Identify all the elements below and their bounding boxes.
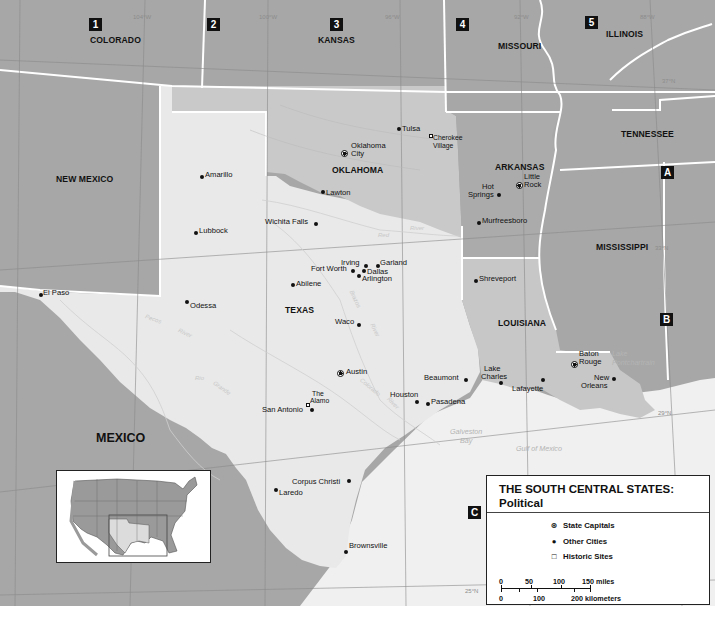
city-dot-icon: ●: [549, 537, 559, 546]
city-label-amarillo: Amarillo: [205, 171, 232, 179]
historic-label-village: Village: [433, 143, 453, 150]
city-marker-arlington[interactable]: [357, 274, 361, 278]
city-label-austin: Austin: [346, 368, 367, 376]
grid-marker-a: A: [661, 166, 674, 179]
grid-marker-4: 4: [456, 18, 469, 31]
city-marker-shreveport[interactable]: [474, 279, 478, 283]
historic-label-alamo: Alamo: [310, 398, 329, 405]
legend-row-cities: ●Other Cities: [549, 537, 607, 546]
city-marker-lake-charles[interactable]: [499, 381, 503, 385]
state-label-missouri: MISSOURI: [498, 42, 541, 51]
capital-marker-oklahoma-city[interactable]: [341, 150, 348, 157]
state-label-arkansas: ARKANSAS: [495, 163, 545, 172]
water-label-pontchartrain: Pontchartrain: [612, 359, 655, 366]
city-label-wichita-falls: Wichita Falls: [265, 218, 308, 226]
city-marker-waco[interactable]: [357, 323, 361, 327]
state-label-tennessee: TENNESSEE: [621, 130, 674, 139]
city-label-waco: Waco: [335, 318, 354, 326]
city-marker-amarillo[interactable]: [200, 175, 204, 179]
city-label-lubbock: Lubbock: [199, 227, 228, 235]
state-label-mississippi: MISSISSIPPI: [596, 243, 648, 252]
city-marker-odessa[interactable]: [185, 300, 189, 304]
state-label-colorado: COLORADO: [90, 36, 141, 45]
city-label-brownsville: Brownsville: [349, 542, 387, 550]
city-marker-beaumont[interactable]: [464, 378, 468, 382]
water-label-lake: Lake: [612, 350, 628, 357]
city-marker-hot-springs[interactable]: [497, 193, 501, 197]
city-label-el-paso: El Paso: [43, 289, 69, 297]
state-label-texas: TEXAS: [285, 306, 314, 315]
capital-marker-austin[interactable]: [337, 370, 344, 377]
city-marker-wichita-falls[interactable]: [314, 222, 318, 226]
grid-marker-3: 3: [330, 18, 343, 31]
state-label-kansas: KANSAS: [318, 36, 355, 45]
state-label-oklahoma: OKLAHOMA: [332, 166, 383, 175]
longitude-label: 96°W: [385, 14, 400, 20]
grid-marker-2: 2: [207, 18, 220, 31]
city-marker-laredo[interactable]: [274, 488, 278, 492]
city-label-laredo: Laredo: [279, 489, 303, 497]
state-label-louisiana: LOUISIANA: [498, 319, 546, 328]
inset-locator-map: [56, 470, 211, 563]
latitude-label: 37°N: [662, 78, 675, 84]
city-marker-houston[interactable]: [415, 400, 419, 404]
longitude-label: 88°W: [640, 14, 655, 20]
latitude-label: 33°N: [655, 245, 668, 251]
city-label-springs: Springs: [468, 191, 494, 199]
legend-divider: [487, 512, 709, 513]
grid-marker-1: 1: [89, 18, 102, 31]
water-label-galveston-bay: Bay: [460, 437, 472, 444]
grid-marker-5: 5: [585, 16, 598, 29]
city-marker-murfreesboro[interactable]: [477, 221, 481, 225]
city-label-garland: Garland: [380, 259, 407, 267]
river-label-red-river: River: [410, 225, 424, 231]
city-marker-pasadena[interactable]: [426, 402, 430, 406]
city-label-corpus-christi: Corpus Christi: [292, 478, 340, 486]
legend-row-historic: □Historic Sites: [549, 552, 613, 561]
grid-marker-c: C: [468, 506, 481, 519]
historic-square-icon: □: [549, 552, 559, 561]
river-label-red: Red: [378, 232, 389, 238]
river-label-rio: Rio: [195, 375, 204, 381]
city-marker-tulsa[interactable]: [397, 127, 401, 131]
city-label-shreveport: Shreveport: [479, 275, 516, 283]
legend-box: THE SOUTH CENTRAL STATES: Political ⊛Sta…: [486, 475, 710, 605]
city-marker-abilene[interactable]: [291, 283, 295, 287]
city-marker-lafayette[interactable]: [541, 378, 545, 382]
map-title: THE SOUTH CENTRAL STATES:: [499, 482, 674, 496]
city-label-abilene: Abilene: [296, 280, 321, 288]
state-label-new-mexico: NEW MEXICO: [56, 175, 113, 184]
city-marker-new-orleans[interactable]: [612, 377, 616, 381]
country-label-mexico: MEXICO: [96, 432, 145, 445]
city-marker-fort-worth[interactable]: [351, 269, 355, 273]
state-label-illinois: ILLINOIS: [606, 30, 643, 39]
city-marker-san-antonio[interactable]: [310, 408, 314, 412]
historic-label-cherokee: Cherokee: [433, 135, 462, 142]
capital-marker-little-rock[interactable]: [516, 182, 523, 189]
longitude-label: 100°W: [259, 14, 277, 20]
map-subtitle: Political: [499, 496, 674, 510]
city-label-fort-worth: Fort Worth: [311, 265, 347, 273]
city-label-city: City: [351, 150, 364, 158]
legend-row-capitals: ⊛State Capitals: [549, 521, 615, 530]
city-marker-dallas[interactable]: [362, 269, 366, 273]
capital-marker-baton-rouge[interactable]: [571, 361, 578, 368]
city-label-odessa: Odessa: [190, 302, 216, 310]
city-label-rouge: Rouge: [579, 358, 601, 366]
city-marker-corpus-christi[interactable]: [347, 479, 351, 483]
water-label-gulf: Gulf of Mexico: [516, 445, 562, 452]
city-marker-brownsville[interactable]: [344, 550, 348, 554]
city-label-tulsa: Tulsa: [402, 125, 420, 133]
inset-us-svg: [57, 471, 211, 563]
city-marker-lawton[interactable]: [321, 190, 325, 194]
latitude-label: 25°N: [465, 588, 478, 594]
city-label-houston: Houston: [390, 391, 418, 399]
map-canvas: 1 2 3 4 5 A B C 104°W 100°W 96°W 92°W 88…: [0, 0, 715, 606]
city-label-charles: Charles: [481, 373, 507, 381]
city-label-arlington: Arlington: [362, 275, 392, 283]
city-marker-lubbock[interactable]: [194, 231, 198, 235]
city-label-rock: Rock: [524, 181, 541, 189]
city-label-murfreesboro: Murfreesboro: [482, 217, 527, 225]
city-label-lawton: Lawton: [326, 189, 351, 197]
longitude-label: 92°W: [514, 14, 529, 20]
